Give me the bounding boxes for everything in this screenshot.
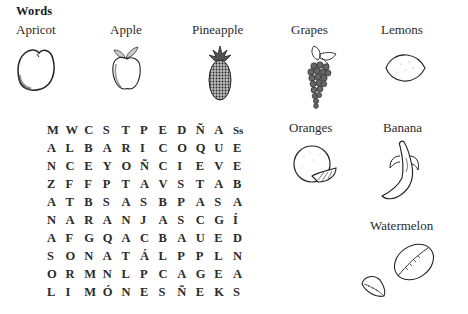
pineapple-icon bbox=[203, 44, 237, 102]
grid-cell: A bbox=[214, 121, 233, 139]
word-label-pineapple: Pineapple bbox=[192, 22, 243, 38]
grid-cell: D bbox=[177, 121, 196, 139]
grid-cell: E bbox=[233, 157, 252, 175]
word-search-grid: MWCSTPEDÑASsALBARICOQUENCEYOÑCIEVEZFFPTA… bbox=[47, 121, 252, 301]
grid-cell: N bbox=[84, 247, 103, 265]
grid-cell: C bbox=[196, 211, 215, 229]
grid-cell: P bbox=[177, 247, 196, 265]
grid-cell: N bbox=[233, 247, 252, 265]
grid-cell: E bbox=[196, 283, 215, 301]
grid-cell: A bbox=[140, 175, 159, 193]
grid-cell: Ñ bbox=[177, 283, 196, 301]
grid-cell: O bbox=[47, 265, 66, 283]
grid-cell: A bbox=[177, 265, 196, 283]
grid-cell: C bbox=[159, 139, 178, 157]
grid-cell: C bbox=[84, 121, 103, 139]
grid-cell: E bbox=[196, 157, 215, 175]
heading: Words bbox=[16, 4, 52, 19]
grid-cell: Ñ bbox=[196, 121, 215, 139]
grid-cell: N bbox=[47, 211, 66, 229]
apple-icon bbox=[108, 44, 144, 94]
grid-cell: N bbox=[103, 265, 122, 283]
grid-cell: P bbox=[140, 265, 159, 283]
lemon-icon bbox=[383, 50, 429, 86]
grid-cell: O bbox=[121, 157, 140, 175]
banana-icon bbox=[378, 138, 430, 202]
grid-cell: F bbox=[66, 229, 85, 247]
word-label-lemons: Lemons bbox=[381, 22, 423, 38]
grid-cell: V bbox=[214, 157, 233, 175]
grid-cell: A bbox=[66, 211, 85, 229]
grid-cell: L bbox=[159, 247, 178, 265]
grid-cell: C bbox=[159, 265, 178, 283]
grid-cell: B bbox=[233, 175, 252, 193]
grid-cell: S bbox=[177, 175, 196, 193]
grid-cell: A bbox=[177, 229, 196, 247]
grid-cell: T bbox=[121, 121, 140, 139]
grid-cell: O bbox=[66, 247, 85, 265]
grid-cell: S bbox=[177, 211, 196, 229]
grid-cell: E bbox=[233, 139, 252, 157]
grid-cell: G bbox=[214, 211, 233, 229]
grid-cell: A bbox=[159, 211, 178, 229]
grid-cell: E bbox=[159, 121, 178, 139]
grid-cell: A bbox=[103, 247, 122, 265]
grid-cell: B bbox=[159, 229, 178, 247]
grid-cell: E bbox=[84, 157, 103, 175]
grid-cell: P bbox=[177, 193, 196, 211]
grid-cell: B bbox=[84, 193, 103, 211]
grid-cell: G bbox=[84, 229, 103, 247]
grid-cell: I bbox=[140, 139, 159, 157]
grid-cell: A bbox=[103, 211, 122, 229]
grid-cell: A bbox=[196, 193, 215, 211]
grid-cell: V bbox=[159, 175, 178, 193]
grid-cell: A bbox=[47, 193, 66, 211]
grid-cell: A bbox=[47, 139, 66, 157]
grid-cell: A bbox=[233, 265, 252, 283]
apricot-icon bbox=[15, 45, 57, 95]
grid-cell: A bbox=[233, 193, 252, 211]
word-label-apple: Apple bbox=[110, 22, 142, 38]
grid-cell: A bbox=[121, 193, 140, 211]
grid-cell: P bbox=[103, 175, 122, 193]
grid-cell: F bbox=[66, 175, 85, 193]
grid-cell: A bbox=[121, 229, 140, 247]
grid-cell: P bbox=[140, 121, 159, 139]
grid-cell: M bbox=[84, 265, 103, 283]
grid-cell: A bbox=[47, 229, 66, 247]
grid-cell: Z bbox=[47, 175, 66, 193]
grid-cell: Q bbox=[103, 229, 122, 247]
grid-cell: E bbox=[140, 283, 159, 301]
grid-cell: S bbox=[47, 247, 66, 265]
grid-cell: S bbox=[233, 283, 252, 301]
grid-cell: T bbox=[66, 193, 85, 211]
grid-cell: R bbox=[84, 211, 103, 229]
grid-cell: J bbox=[140, 211, 159, 229]
grid-cell: C bbox=[159, 157, 178, 175]
grid-cell: S bbox=[159, 283, 178, 301]
word-label-oranges: Oranges bbox=[289, 120, 332, 136]
grid-cell: T bbox=[196, 175, 215, 193]
grid-cell: M bbox=[84, 283, 103, 301]
word-label-watermelon: Watermelon bbox=[370, 218, 433, 234]
grid-cell: C bbox=[140, 229, 159, 247]
grid-cell: P bbox=[196, 247, 215, 265]
grid-cell: O bbox=[177, 139, 196, 157]
watermelon-icon bbox=[358, 240, 438, 304]
grid-cell: F bbox=[84, 175, 103, 193]
grid-cell: R bbox=[121, 139, 140, 157]
word-label-apricot: Apricot bbox=[16, 22, 56, 38]
grid-cell: M bbox=[47, 121, 66, 139]
grid-cell: R bbox=[66, 265, 85, 283]
grid-cell: C bbox=[66, 157, 85, 175]
grapes-icon bbox=[300, 42, 344, 112]
grid-cell: E bbox=[214, 265, 233, 283]
grid-cell: U bbox=[214, 139, 233, 157]
grid-cell: S bbox=[140, 193, 159, 211]
grid-cell: E bbox=[214, 229, 233, 247]
grid-cell: I bbox=[177, 157, 196, 175]
grid-cell: T bbox=[121, 175, 140, 193]
grid-cell: L bbox=[121, 265, 140, 283]
grid-cell: Ó bbox=[103, 283, 122, 301]
grid-cell: A bbox=[214, 175, 233, 193]
